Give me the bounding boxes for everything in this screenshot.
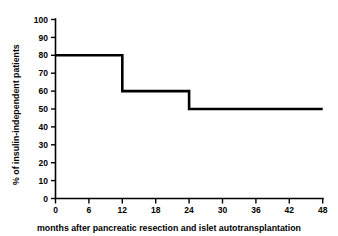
chart-background <box>0 0 338 236</box>
chart-figure: % of insulin-independent patients 100 90… <box>0 0 338 236</box>
x-tick-label: 36 <box>251 205 261 215</box>
x-tick-label: 48 <box>318 205 328 215</box>
x-axis-title: months after pancreatic resection and is… <box>37 223 301 233</box>
x-tick-label: 24 <box>184 205 194 215</box>
y-tick-label: 100 <box>34 15 48 25</box>
y-tick-label: 70 <box>39 68 49 78</box>
x-tick-label: 30 <box>218 205 228 215</box>
y-tick-label: 0 <box>43 194 48 204</box>
y-tick-label: 50 <box>39 104 49 114</box>
x-tick-label: 42 <box>285 205 295 215</box>
x-tick-label: 6 <box>87 205 92 215</box>
y-tick-label: 20 <box>39 158 49 168</box>
y-axis-title: % of insulin-independent patients <box>11 44 21 185</box>
x-tick-label: 18 <box>151 205 161 215</box>
y-tick-label: 60 <box>39 86 49 96</box>
x-tick-label: 0 <box>53 205 58 215</box>
y-tick-label: 30 <box>39 140 49 150</box>
survival-curve-chart: % of insulin-independent patients 100 90… <box>0 0 338 236</box>
y-tick-label: 10 <box>39 176 49 186</box>
x-tick-label: 12 <box>118 205 128 215</box>
y-tick-label: 90 <box>39 33 49 43</box>
y-tick-label: 80 <box>39 50 49 60</box>
y-tick-label: 40 <box>39 122 49 132</box>
